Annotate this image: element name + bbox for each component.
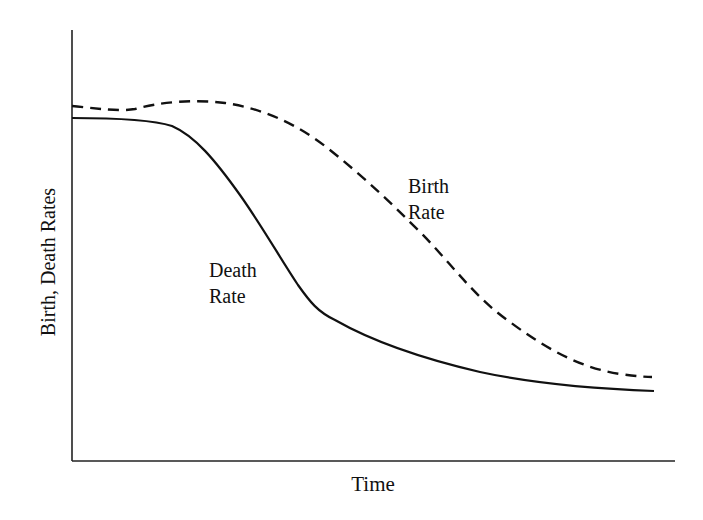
birth-rate-label-line2: Rate	[408, 199, 449, 225]
death-rate-label-line1: Death	[209, 257, 257, 283]
birth-rate-line	[72, 101, 652, 377]
death-rate-label-line2: Rate	[209, 283, 257, 309]
death-rate-line	[72, 118, 654, 391]
x-axis-label: Time	[351, 472, 395, 497]
birth-rate-label-line1: Birth	[408, 173, 449, 199]
birth-rate-label: Birth Rate	[408, 173, 449, 225]
plot-area	[0, 0, 703, 520]
demographic-transition-chart: Birth Rate Death Rate Birth, Death Rates…	[0, 0, 703, 520]
y-axis-label: Birth, Death Rates	[37, 188, 60, 336]
death-rate-label: Death Rate	[209, 257, 257, 309]
